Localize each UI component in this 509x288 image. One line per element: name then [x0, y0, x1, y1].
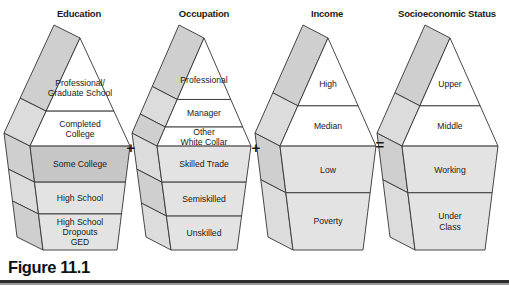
band-label-2: Middle [437, 121, 463, 131]
title-socioeconomic-status: Socioeconomic Status [398, 8, 496, 19]
title-income: Income [311, 8, 343, 19]
band-label-1: Upper [438, 79, 462, 89]
figure-container: Education Occupation Income Socioeconomi… [0, 0, 509, 288]
band-label-1: Professional [180, 75, 227, 85]
operator-plus-1: + [127, 139, 136, 156]
title-occupation: Occupation [179, 8, 230, 19]
band-label-6: Unskilled [187, 228, 222, 238]
band-label-3: Low [320, 165, 337, 175]
stratification-pyramids-diagram: Education Occupation Income Socioeconomi… [0, 0, 509, 288]
pyramid-occupation: ProfessionalManagerOtherWhite CollarSkil… [132, 25, 251, 250]
pyramid-socioeconomic-status: UpperMiddleWorkingUnderClass [377, 25, 498, 250]
band-label-3: Some College [53, 159, 107, 169]
band-label-4: UnderClass [438, 211, 462, 231]
figure-caption: Figure 11.1 [8, 258, 90, 277]
band-label-1: High [319, 79, 337, 89]
band-label-4: High School [57, 193, 103, 203]
band-label-4: Skilled Trade [179, 159, 229, 169]
band-label-3: Working [434, 165, 466, 175]
band-label-1: Professional/Graduate School [48, 78, 113, 98]
pyramid-education: Professional/Graduate SchoolCompletedCol… [4, 25, 130, 250]
title-education: Education [57, 8, 102, 19]
operator-equals: = [376, 136, 385, 153]
band-label-2: Manager [187, 108, 221, 118]
operator-plus-2: + [252, 139, 261, 156]
bottom-divider-shadow [0, 283, 509, 285]
column-titles: Education Occupation Income Socioeconomi… [57, 8, 496, 19]
band-label-4: Poverty [313, 216, 343, 226]
band-label-2: Median [314, 121, 342, 131]
band-label-5: Semiskilled [182, 194, 226, 204]
pyramid-income: HighMedianLowPoverty [255, 25, 376, 250]
